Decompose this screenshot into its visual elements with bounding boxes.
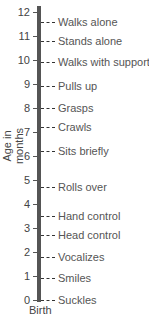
milestone: Walks with support	[41, 56, 149, 68]
dash-leader	[41, 187, 55, 189]
birth-label: Birth	[29, 304, 52, 316]
milestone-label: Grasps	[58, 102, 93, 114]
dash-leader	[41, 127, 55, 129]
milestone: Pulls up	[41, 80, 97, 92]
dash-leader	[41, 108, 55, 110]
y-tick-label: 5	[8, 174, 30, 186]
milestone-label: Walks with support	[58, 56, 149, 68]
dash-leader	[41, 300, 55, 302]
y-tick-label: 10	[8, 54, 30, 66]
y-tick	[33, 36, 37, 37]
milestone: Smiles	[41, 272, 91, 284]
y-tick-label: 3	[8, 222, 30, 234]
y-tick-label: 8	[8, 102, 30, 114]
milestone: Stands alone	[41, 35, 122, 47]
y-tick	[33, 84, 37, 85]
y-tick	[33, 180, 37, 181]
y-tick	[33, 204, 37, 205]
dash-leader	[41, 62, 55, 64]
y-tick	[33, 228, 37, 229]
milestone: Rolls over	[41, 181, 107, 193]
y-tick	[33, 300, 37, 301]
milestone: Grasps	[41, 102, 93, 114]
y-tick	[33, 156, 37, 157]
y-tick	[33, 12, 37, 13]
y-tick	[33, 108, 37, 109]
y-tick	[33, 132, 37, 133]
y-tick-label: 11	[8, 30, 30, 42]
milestone-label: Crawls	[58, 121, 92, 133]
y-tick-label: 9	[8, 78, 30, 90]
milestone: Sits briefly	[41, 145, 109, 157]
y-tick	[33, 60, 37, 61]
dash-leader	[41, 151, 55, 153]
y-tick-label: 4	[8, 198, 30, 210]
y-tick-label: 2	[8, 246, 30, 258]
milestone-label: Head control	[58, 229, 120, 241]
dash-leader	[41, 278, 55, 280]
milestone-label: Stands alone	[58, 35, 122, 47]
y-tick-label: 6	[8, 150, 30, 162]
milestone: Crawls	[41, 121, 92, 133]
milestone: Walks alone	[41, 16, 118, 28]
dash-leader	[41, 235, 55, 237]
dash-leader	[41, 41, 55, 43]
y-tick	[33, 252, 37, 253]
y-axis-label: Age in months	[1, 111, 13, 181]
dash-leader	[41, 257, 55, 259]
dash-leader	[41, 216, 55, 218]
milestone: Vocalizes	[41, 251, 104, 263]
y-tick-label: 1	[8, 270, 30, 282]
milestone-label: Suckles	[58, 294, 97, 306]
y-tick-label: 12	[8, 6, 30, 18]
milestone-label: Rolls over	[58, 181, 107, 193]
dash-leader	[41, 86, 55, 88]
dash-leader	[41, 22, 55, 24]
y-tick-label: 0	[8, 294, 30, 306]
milestone-label: Smiles	[58, 272, 91, 284]
milestone-label: Pulls up	[58, 80, 97, 92]
milestone-label: Sits briefly	[58, 145, 109, 157]
milestone-timeline: Age in months 0123456789101112 Walks alo…	[0, 0, 149, 318]
milestone: Head control	[41, 229, 120, 241]
milestone-label: Walks alone	[58, 16, 118, 28]
milestone-label: Vocalizes	[58, 251, 104, 263]
y-tick-label: 7	[8, 126, 30, 138]
milestone: Hand control	[41, 210, 120, 222]
milestone-label: Hand control	[58, 210, 120, 222]
y-tick	[33, 276, 37, 277]
